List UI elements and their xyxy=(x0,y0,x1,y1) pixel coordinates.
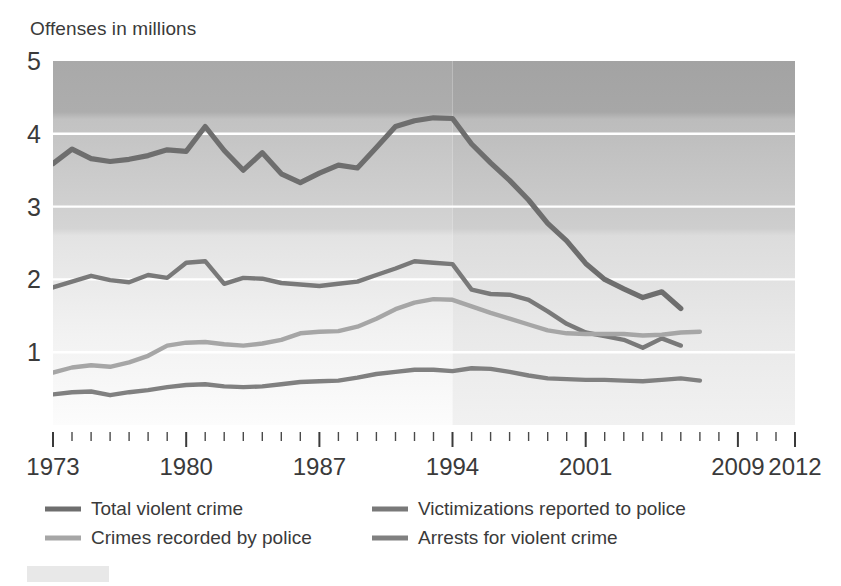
legend-item: Victimizations reported to police xyxy=(372,498,686,519)
y-axis-tick-label: 2 xyxy=(27,265,41,293)
legend-item: Total violent crime xyxy=(45,498,243,519)
chart-legend: Total violent crimeVictimizations report… xyxy=(45,498,686,548)
chart-figure: Offenses in millions xyxy=(0,0,841,586)
x-axis-ticks xyxy=(53,432,795,447)
x-axis-tick-label: 1994 xyxy=(426,453,479,480)
x-axis-tick-label: 1980 xyxy=(160,453,213,480)
legend-label: Victimizations reported to police xyxy=(418,498,686,519)
legend-label: Crimes recorded by police xyxy=(91,527,312,548)
legend-item: Arrests for violent crime xyxy=(372,527,618,548)
legend-item: Crimes recorded by police xyxy=(45,527,312,548)
y-axis-tick-label: 4 xyxy=(27,120,41,148)
y-axis-tick-label: 1 xyxy=(27,338,41,366)
x-axis-tick-label: 2001 xyxy=(559,453,612,480)
legend-label: Total violent crime xyxy=(91,498,243,519)
footer-swatch xyxy=(27,566,109,582)
x-axis-tick-label: 2009 xyxy=(711,453,764,480)
line-chart: 12345 1973198019871994200120092012 Total… xyxy=(0,0,841,586)
x-axis-tick-label: 1973 xyxy=(26,453,79,480)
y-axis-tick-labels: 12345 xyxy=(27,47,41,366)
x-axis-tick-labels: 1973198019871994200120092012 xyxy=(26,453,821,480)
x-axis-tick-label: 1987 xyxy=(293,453,346,480)
legend-label: Arrests for violent crime xyxy=(418,527,618,548)
x-axis-tick-label: 2012 xyxy=(768,453,821,480)
y-axis-tick-label: 5 xyxy=(27,47,41,75)
y-axis-tick-label: 3 xyxy=(27,193,41,221)
